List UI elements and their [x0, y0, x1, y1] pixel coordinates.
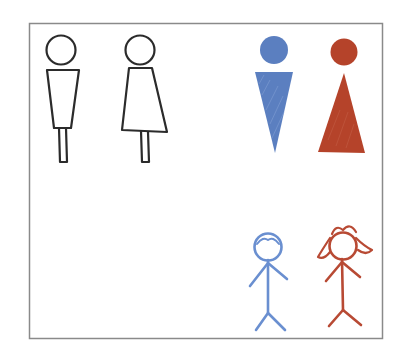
head-shape	[331, 39, 358, 66]
body-line	[342, 259, 343, 310]
head-shape	[260, 36, 288, 64]
drawing-frame	[30, 24, 383, 339]
pictogram-canvas	[0, 0, 405, 358]
